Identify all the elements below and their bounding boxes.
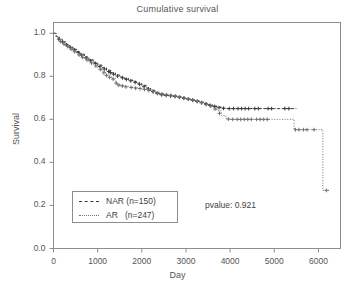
censor-mark <box>243 107 247 111</box>
censor-mark <box>187 97 191 101</box>
censor-mark <box>287 107 291 111</box>
censor-mark <box>111 77 115 81</box>
x-tick-label: 1000 <box>78 256 118 266</box>
data-series-layer <box>54 33 330 192</box>
censor-mark <box>283 107 287 111</box>
censor-mark <box>258 117 262 121</box>
y-tick-label: 0.2 <box>20 199 46 209</box>
censor-mark <box>235 117 239 121</box>
censor-mark <box>297 128 301 132</box>
censor-mark <box>218 111 222 115</box>
censor-mark <box>120 84 124 88</box>
censor-mark <box>102 71 106 75</box>
censor-mark <box>129 86 133 90</box>
censor-mark <box>191 98 195 102</box>
censor-mark <box>256 107 260 111</box>
censor-mark <box>222 106 226 110</box>
censor-mark <box>129 79 133 83</box>
x-tick-label: 0 <box>34 256 74 266</box>
censor-mark <box>312 128 316 132</box>
censor-mark <box>255 117 259 121</box>
legend-label-ar: AR (n=247) <box>106 210 154 220</box>
x-axis-label: Day <box>0 270 355 280</box>
censor-mark <box>226 117 230 121</box>
x-axis-ticks <box>54 249 319 253</box>
censor-mark <box>108 75 112 79</box>
x-tick-label: 3000 <box>166 256 206 266</box>
censor-mark <box>236 107 240 111</box>
x-tick-label: 5000 <box>254 256 294 266</box>
censor-mark <box>133 80 137 84</box>
chart-title: Cumulative survival <box>0 4 355 14</box>
y-tick-label: 0.8 <box>20 70 46 80</box>
legend-swatch-nar <box>79 201 99 202</box>
censor-mark <box>239 117 243 121</box>
censor-mark <box>242 117 246 121</box>
series-nar <box>54 33 297 110</box>
censor-mark <box>200 101 204 105</box>
y-tick-label: 0.0 <box>20 243 46 253</box>
legend-item-ar: AR (n=247) <box>73 208 179 222</box>
censor-mark <box>246 117 250 121</box>
censor-mark <box>240 107 244 111</box>
pvalue-annotation: pvalue: 0.921 <box>205 200 256 210</box>
y-axis-ticks <box>50 33 54 248</box>
censor-mark <box>178 95 182 99</box>
censor-mark <box>265 117 269 121</box>
censor-mark <box>262 117 266 121</box>
censor-mark <box>247 107 251 111</box>
legend-swatch-ar <box>79 215 99 216</box>
censor-mark <box>105 74 109 78</box>
y-tick-label: 0.4 <box>20 156 46 166</box>
curve-ar <box>54 33 330 190</box>
censor-mark <box>324 188 328 192</box>
censor-mark <box>217 106 221 110</box>
survival-chart-figure: Cumulative survival Day Survival 0.00.20… <box>0 0 355 299</box>
x-tick-label: 2000 <box>122 256 162 266</box>
censor-mark <box>266 107 270 111</box>
censor-mark <box>253 107 257 111</box>
y-tick-label: 1.0 <box>20 27 46 37</box>
censor-mark <box>173 94 177 98</box>
y-tick-label: 0.6 <box>20 113 46 123</box>
series-ar <box>54 33 330 192</box>
x-tick-label: 4000 <box>210 256 250 266</box>
legend: NAR (n=150) AR (n=247) <box>72 191 178 223</box>
legend-item-nar: NAR (n=150) <box>73 194 179 208</box>
censor-mark <box>138 87 142 91</box>
plot-canvas <box>0 0 355 299</box>
censor-mark <box>231 117 235 121</box>
censor-mark <box>249 117 253 121</box>
censor-mark <box>232 107 236 111</box>
censor-mark <box>302 128 306 132</box>
censor-mark <box>227 107 231 111</box>
censor-mark <box>169 94 173 98</box>
x-tick-label: 6000 <box>298 256 338 266</box>
censor-mark <box>270 107 274 111</box>
legend-label-nar: NAR (n=150) <box>106 196 156 206</box>
censor-mark <box>134 86 138 90</box>
censor-mark <box>305 128 309 132</box>
censor-mark <box>182 96 186 100</box>
